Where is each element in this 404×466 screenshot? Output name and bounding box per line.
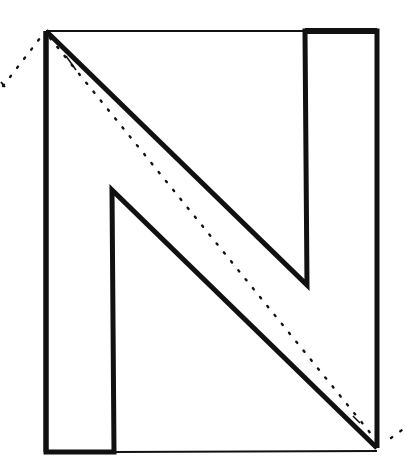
dash-mark (353, 416, 360, 423)
dotted-extension-right (391, 430, 402, 438)
outer-bottom-edge (114, 451, 377, 452)
n-letter-outline-lower (46, 31, 377, 452)
dotted-diagonal (50, 38, 376, 440)
dotted-extension-left (3, 33, 44, 86)
n-diagram (0, 0, 404, 466)
n-letter-outline (46, 31, 377, 448)
